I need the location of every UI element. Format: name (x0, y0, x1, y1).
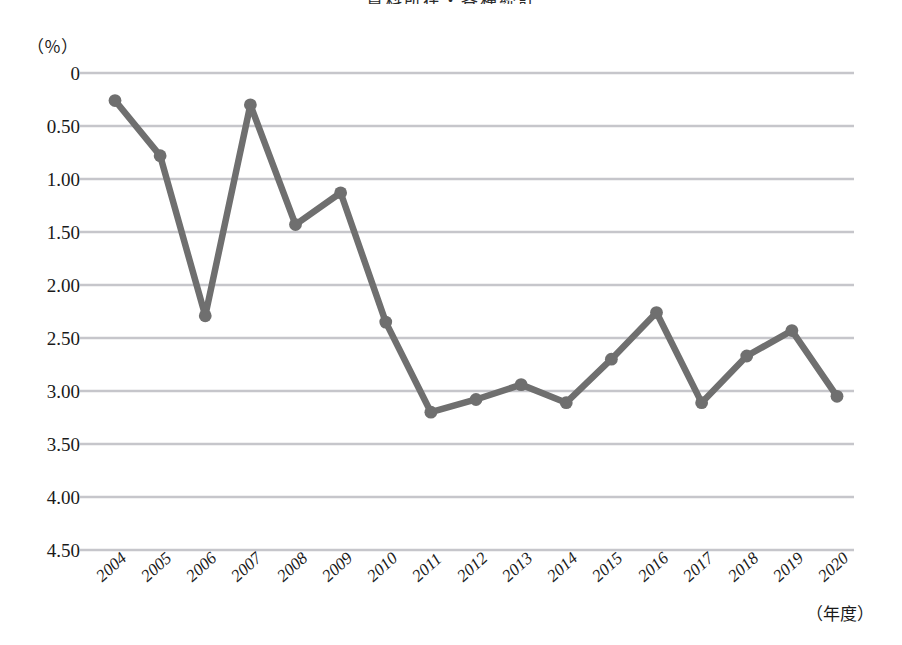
x-axis-tick-label: 2006 (183, 549, 220, 584)
x-axis-tick-label: 2012 (454, 549, 491, 584)
x-axis-tick-label: 2010 (364, 549, 401, 584)
x-axis-tick-label: 2016 (635, 549, 672, 584)
chart-figure: 資料所在・各種統計 （％） 4.504.003.503.002.502.001.… (0, 0, 902, 645)
x-axis-tick-label: 2018 (725, 549, 762, 584)
x-axis-tick-label: 2014 (544, 549, 581, 584)
x-axis-tick-label: 2004 (93, 549, 130, 584)
x-axis-tick-label: 2015 (589, 549, 626, 584)
x-axis-tick-label: 2009 (319, 549, 356, 584)
x-axis-tick-label: 2017 (680, 549, 717, 584)
x-axis-tick-label: 2008 (274, 549, 311, 584)
x-axis-tick-label: 2020 (815, 549, 852, 584)
x-axis-tick-label: 2007 (228, 549, 265, 584)
x-axis-tick-label: 2013 (499, 549, 536, 584)
x-axis-labels: 2004200520062007200820092010201120122013… (0, 0, 902, 645)
x-axis-tick-label: 2011 (409, 550, 445, 585)
x-axis-tick-label: 2019 (770, 549, 807, 584)
x-axis-tick-label: 2005 (138, 549, 175, 584)
x-axis-unit-label: （年度） (806, 600, 874, 625)
